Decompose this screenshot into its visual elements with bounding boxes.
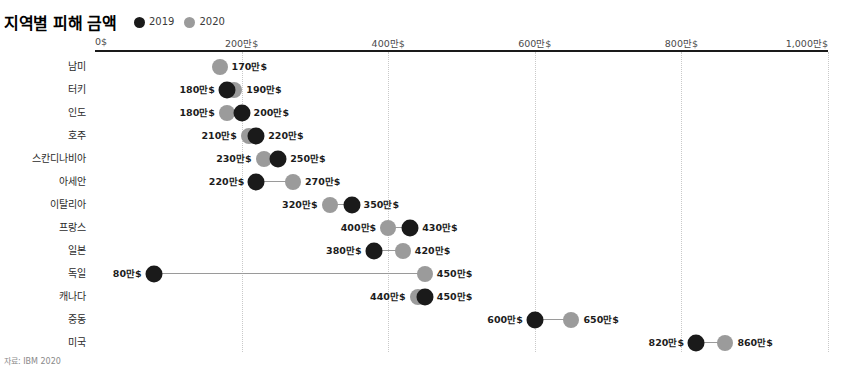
data-point-2019[interactable] bbox=[343, 196, 360, 213]
value-label-2019: 180만$ bbox=[179, 78, 214, 101]
x-axis-tick-label: 800만$ bbox=[665, 36, 698, 50]
value-label-2019: 250만$ bbox=[290, 147, 325, 170]
chart-row[interactable]: 미국820만$860만$ bbox=[0, 331, 846, 354]
source-note: 자료: IBM 2020 bbox=[4, 355, 61, 366]
value-label-2019: 430만$ bbox=[422, 216, 457, 239]
value-label-2019: 380만$ bbox=[326, 239, 361, 262]
category-label: 중동 bbox=[0, 308, 86, 331]
data-point-2020[interactable] bbox=[322, 197, 338, 213]
value-label-2019: 820만$ bbox=[649, 331, 684, 354]
data-point-2019[interactable] bbox=[248, 173, 265, 190]
chart-row[interactable]: 캐나다440만$450만$ bbox=[0, 285, 846, 308]
data-point-2020[interactable] bbox=[380, 220, 396, 236]
category-label: 아세안 bbox=[0, 170, 86, 193]
data-point-2020[interactable] bbox=[395, 243, 411, 259]
data-point-2019[interactable] bbox=[248, 127, 265, 144]
data-point-2020[interactable] bbox=[717, 335, 733, 351]
category-label: 터키 bbox=[0, 78, 86, 101]
chart-row[interactable]: 일본380만$420만$ bbox=[0, 239, 846, 262]
category-label: 이탈리아 bbox=[0, 193, 86, 216]
chart-row[interactable]: 스칸디나비아230만$250만$ bbox=[0, 147, 846, 170]
data-point-2019[interactable] bbox=[233, 104, 250, 121]
x-axis-line bbox=[95, 50, 828, 52]
value-label-2020: 270만$ bbox=[305, 170, 340, 193]
chart-container: 지역별 피해 금액 20192020 0$200만$400만$600만$800만… bbox=[0, 0, 846, 372]
data-point-2020[interactable] bbox=[417, 266, 433, 282]
value-label-2019: 600만$ bbox=[487, 308, 522, 331]
category-label: 인도 bbox=[0, 101, 86, 124]
data-point-2019[interactable] bbox=[365, 242, 382, 259]
chart-row[interactable]: 아세안220만$270만$ bbox=[0, 170, 846, 193]
category-label: 독일 bbox=[0, 262, 86, 285]
value-label-2020: 210만$ bbox=[201, 124, 236, 147]
chart-row[interactable]: 중동600만$650만$ bbox=[0, 308, 846, 331]
value-label-2020: 440만$ bbox=[370, 285, 405, 308]
data-point-2019[interactable] bbox=[402, 219, 419, 236]
data-point-2019[interactable] bbox=[688, 334, 705, 351]
category-label: 프랑스 bbox=[0, 216, 86, 239]
category-label: 스칸디나비아 bbox=[0, 147, 86, 170]
x-axis-tick-label: 400만$ bbox=[372, 36, 405, 50]
value-label-2019: 220만$ bbox=[209, 170, 244, 193]
x-axis-tick-label: 0$ bbox=[95, 36, 107, 47]
value-label-2019: 220만$ bbox=[268, 124, 303, 147]
plot-area: 0$200만$400만$600만$800만$1,000만$남미170만$터키18… bbox=[0, 0, 846, 372]
chart-row[interactable]: 터키180만$190만$ bbox=[0, 78, 846, 101]
value-label-2019: 350만$ bbox=[364, 193, 399, 216]
data-point-2019[interactable] bbox=[416, 288, 433, 305]
value-label-2019: 450만$ bbox=[437, 285, 472, 308]
value-label-2020: 170만$ bbox=[232, 55, 267, 78]
value-label-2020: 860만$ bbox=[737, 331, 772, 354]
category-label: 남미 bbox=[0, 55, 86, 78]
data-point-2019[interactable] bbox=[218, 81, 235, 98]
data-point-2019[interactable] bbox=[145, 265, 162, 282]
chart-row[interactable]: 호주210만$220만$ bbox=[0, 124, 846, 147]
value-label-2019: 200만$ bbox=[254, 101, 289, 124]
category-label: 미국 bbox=[0, 331, 86, 354]
value-label-2020: 190만$ bbox=[246, 78, 281, 101]
data-point-2019[interactable] bbox=[526, 311, 543, 328]
chart-row[interactable]: 프랑스400만$430만$ bbox=[0, 216, 846, 239]
x-axis-tick-label: 1,000만$ bbox=[786, 36, 828, 50]
category-label: 캐나다 bbox=[0, 285, 86, 308]
chart-row[interactable]: 이탈리아320만$350만$ bbox=[0, 193, 846, 216]
value-label-2020: 230만$ bbox=[216, 147, 251, 170]
value-label-2020: 420만$ bbox=[415, 239, 450, 262]
value-label-2020: 450만$ bbox=[437, 262, 472, 285]
x-axis-tick-label: 200만$ bbox=[225, 36, 258, 50]
value-label-2020: 400만$ bbox=[341, 216, 376, 239]
category-label: 호주 bbox=[0, 124, 86, 147]
chart-row[interactable]: 독일80만$450만$ bbox=[0, 262, 846, 285]
x-axis-tick-label: 600만$ bbox=[518, 36, 551, 50]
row-connector-line bbox=[154, 273, 425, 274]
category-label: 일본 bbox=[0, 239, 86, 262]
value-label-2019: 80만$ bbox=[113, 262, 142, 285]
data-point-2020[interactable] bbox=[212, 59, 228, 75]
value-label-2020: 320만$ bbox=[282, 193, 317, 216]
chart-row[interactable]: 남미170만$ bbox=[0, 55, 846, 78]
data-point-2019[interactable] bbox=[270, 150, 287, 167]
data-point-2020[interactable] bbox=[285, 174, 301, 190]
data-point-2020[interactable] bbox=[563, 312, 579, 328]
value-label-2020: 180만$ bbox=[179, 101, 214, 124]
chart-row[interactable]: 인도180만$200만$ bbox=[0, 101, 846, 124]
value-label-2020: 650만$ bbox=[583, 308, 618, 331]
